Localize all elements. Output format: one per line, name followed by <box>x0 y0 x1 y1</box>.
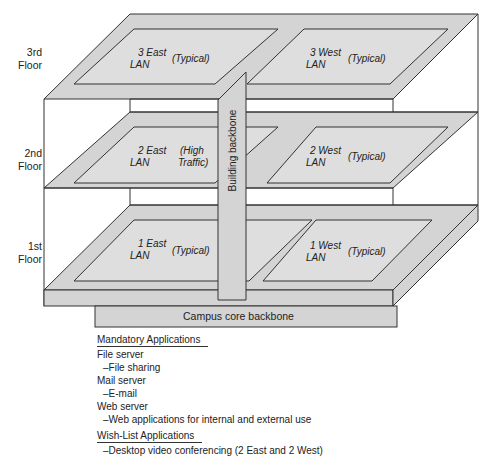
floor-2-slab <box>44 112 478 204</box>
lan-3-west-note: (Typical) <box>348 53 386 65</box>
lan-1-east-note: (Typical) <box>172 245 210 257</box>
use-web: –Web applications for internal and exter… <box>97 413 323 426</box>
building-backbone-label: Building backbone <box>227 105 238 197</box>
use-mail: –E-mail <box>97 387 323 400</box>
floor-label-1: 1st Floor <box>2 240 42 266</box>
use-file: –File sharing <box>97 361 323 374</box>
lan-1-east-name: 1 East LAN <box>130 238 166 262</box>
lan-1-west-name: 1 West LAN <box>306 240 341 264</box>
floor-label-3: 3rd Floor <box>2 46 42 72</box>
campus-core-backbone-label: Campus core backbone <box>183 310 294 322</box>
lan-1-west-note: (Typical) <box>348 246 386 258</box>
floor-1-slab <box>44 205 478 306</box>
mandatory-applications-heading: Mandatory Applications <box>97 333 208 347</box>
server-file: File server <box>97 348 323 361</box>
lan-3-east-note: (Typical) <box>172 53 210 65</box>
applications-list: Mandatory Applications File server –File… <box>97 333 323 456</box>
server-mail: Mail server <box>97 374 323 387</box>
lan-2-east-name: 2 East LAN <box>130 145 166 169</box>
lan-2-east-note: (High Traffic) <box>178 145 208 169</box>
wishlist-item: –Desktop video conferencing (2 East and … <box>97 444 323 456</box>
lan-2-west-name: 2 West LAN <box>306 145 341 169</box>
lan-2-west-note: (Typical) <box>348 151 386 163</box>
lan-3-west-name: 3 West LAN <box>306 47 341 71</box>
lan-3-east-name: 3 East LAN <box>130 47 166 71</box>
floor-3-slab <box>44 14 478 99</box>
wishlist-applications-heading: Wish-List Applications <box>97 429 202 443</box>
floor-label-2: 2nd Floor <box>2 147 42 173</box>
server-web: Web server <box>97 400 323 413</box>
